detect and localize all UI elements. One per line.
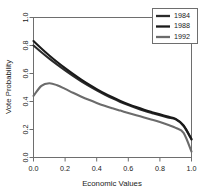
chart-legend: 198419881992 (153, 9, 198, 44)
chart-svg: 0.00.20.40.60.81.0 0.00.20.40.60.81.0 Ec… (0, 0, 204, 193)
legend-label-1988: 1988 (174, 21, 190, 30)
data-series-group (34, 41, 192, 152)
x-tick-label: 0.8 (155, 164, 165, 173)
y-tick-label: 0.4 (21, 97, 30, 107)
y-tick-label: 1.0 (21, 13, 30, 23)
x-axis-ticks: 0.00.20.40.60.81.0 (29, 158, 197, 173)
y-tick-label: 0.2 (21, 125, 30, 135)
x-tick-label: 1.0 (187, 164, 197, 173)
legend-label-1992: 1992 (174, 32, 190, 41)
x-tick-label: 0.2 (60, 164, 70, 173)
y-tick-label: 0.6 (21, 69, 30, 79)
y-tick-label: 0.0 (21, 153, 30, 163)
chart-container: 0.00.20.40.60.81.0 0.00.20.40.60.81.0 Ec… (0, 0, 204, 193)
y-axis-ticks: 0.00.20.40.60.81.0 (21, 13, 33, 163)
y-tick-label: 0.8 (21, 41, 30, 51)
x-axis-title: Economic Values (82, 179, 142, 188)
y-axis-title: Vote Probability (4, 60, 13, 114)
x-tick-label: 0.6 (123, 164, 133, 173)
x-tick-label: 0.0 (29, 164, 39, 173)
legend-label-1984: 1984 (174, 11, 190, 20)
x-tick-label: 0.4 (92, 164, 102, 173)
